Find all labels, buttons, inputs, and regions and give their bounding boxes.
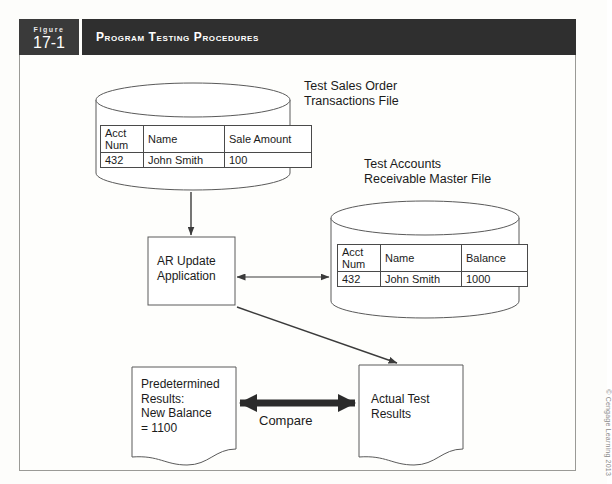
figure-number-block: Figure 17-1: [19, 19, 79, 55]
ar-update-application-label: AR Update Application: [157, 254, 216, 283]
table-header-cell: Acct Num: [338, 245, 381, 272]
predetermined-results-label: Predetermined Results: New Balance = 110…: [141, 377, 220, 435]
header-title-area: Program Testing Procedures: [82, 19, 576, 55]
table-header-cell: Balance: [462, 245, 528, 272]
actual-test-results-label: Actual Test Results: [371, 392, 429, 421]
table-cell: 1000: [462, 272, 528, 287]
table-header-cell: Acct Num: [101, 126, 144, 153]
table-header-cell: Name: [381, 245, 462, 272]
table-header-cell: Sale Amount: [225, 126, 312, 153]
figure-header: Figure 17-1 Program Testing Procedures: [19, 19, 576, 55]
master-table: Acct Num Name Balance 432 John Smith 100…: [337, 244, 528, 287]
master-file-label: Test Accounts Receivable Master File: [364, 157, 491, 187]
figure-title: Program Testing Procedures: [96, 30, 259, 44]
table-cell: 432: [338, 272, 381, 287]
table-header-row: Acct Num Name Sale Amount: [101, 126, 312, 153]
diagram-canvas: Test Sales Order Transactions File Test …: [19, 55, 576, 471]
transactions-table: Acct Num Name Sale Amount 432 John Smith…: [100, 125, 312, 168]
table-cell: 432: [101, 153, 144, 168]
copyright-credit: © Cengage Learning 2013: [605, 389, 612, 476]
compare-label: Compare: [259, 413, 312, 428]
table-header-cell: Name: [144, 126, 225, 153]
table-row: 432 John Smith 100: [101, 153, 312, 168]
figure-number: 17-1: [33, 34, 65, 51]
table-row: 432 John Smith 1000: [338, 272, 528, 287]
table-cell: John Smith: [381, 272, 462, 287]
table-cell: 100: [225, 153, 312, 168]
table-header-row: Acct Num Name Balance: [338, 245, 528, 272]
table-cell: John Smith: [144, 153, 225, 168]
transactions-file-label: Test Sales Order Transactions File: [304, 79, 399, 109]
figure-label-word: Figure: [34, 25, 65, 34]
